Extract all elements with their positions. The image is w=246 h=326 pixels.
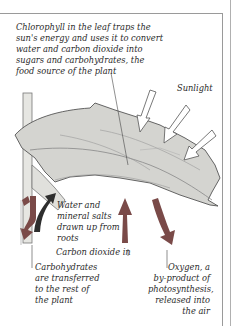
carbohydrates-label: Carbohydrates are transferred to the res… — [35, 262, 99, 306]
oxygen-label: Oxygen, a by-product of photosynthesis, … — [148, 262, 210, 317]
oxygen-out-arrow-icon — [152, 198, 175, 245]
water-label: Water and mineral salts drawn up from ro… — [57, 200, 120, 244]
sunlight-label: Sunlight — [177, 83, 213, 94]
carbon-dioxide-label: Carbon dioxide in — [56, 247, 131, 258]
chlorophyll-label: Chlorophyll in the leaf traps the sun's … — [16, 22, 163, 77]
co2-in-arrow-icon — [118, 198, 132, 243]
